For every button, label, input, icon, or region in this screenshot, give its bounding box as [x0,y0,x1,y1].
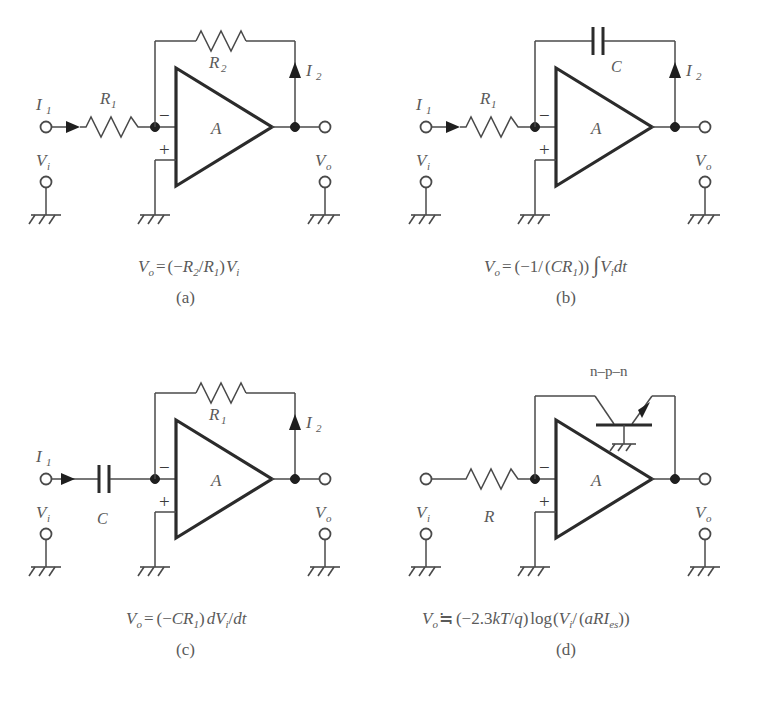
svg-text:Vo=(−R2/R1)Vi: Vo=(−R2/R1)Vi [138,257,239,278]
label-amp-a: A [210,119,222,138]
ground-symbol-amp-a [138,215,170,224]
feedback-resistor-a [196,31,246,51]
op-amp-triangle-b [556,68,652,186]
circuit-panel-a: I 1 R 1 R 2 I 2 A − + V i V o Vo=(−R2/R1… [0,0,380,352]
label-input-current-a: I [35,95,43,114]
label-feedback-current-sub-b: 2 [696,70,702,82]
output-terminal-b[interactable] [700,122,711,133]
input-ground-terminal-c[interactable] [41,529,52,540]
circuit-panel-c: I 1 C R 1 I 2 A − + V i V o Vo=(−CR1)dVi… [0,352,380,704]
label-input-resistor-sub-a: 1 [111,98,117,110]
output-terminal-c[interactable] [320,474,331,485]
caption-d: (d) [556,640,576,659]
output-ground-terminal-c[interactable] [320,529,331,540]
inverting-sign-d: − [539,457,550,478]
label-input-current-sub-b: 1 [426,104,432,116]
label-input-voltage-sub-d: i [427,512,430,524]
label-input-voltage-sub-a: i [47,160,50,172]
output-node-d [671,475,680,484]
ground-symbol-input-c [29,567,61,576]
label-amp-c: A [210,471,222,490]
label-feedback-current-sub-a: 2 [316,70,322,82]
svg-text:Vo=(−1/(CR1))∫Vidt: Vo=(−1/(CR1))∫Vidt [484,252,628,278]
output-ground-terminal-b[interactable] [700,177,711,188]
label-output-voltage-sub-d: o [706,512,712,524]
label-amp-b: A [590,119,602,138]
input-resistor-b [460,117,525,137]
output-terminal-d[interactable] [700,474,711,485]
label-input-current-sub-c: 1 [46,456,52,468]
label-amp-d: A [590,471,602,490]
noninverting-sign-b: + [539,139,550,160]
output-ground-terminal-d[interactable] [700,529,711,540]
label-feedback-resistor-a: R [208,53,220,72]
input-terminal-a[interactable] [41,122,52,133]
noninverting-sign-c: + [159,491,170,512]
feedback-current-arrow-b [669,62,681,78]
output-node-a [291,123,300,132]
input-terminal-d[interactable] [421,474,432,485]
label-feedback-capacitor-b: C [611,58,622,75]
noninverting-sign-a: + [159,139,170,160]
output-node-c [291,475,300,484]
ground-symbol-amp-d [518,567,550,576]
label-input-current-sub-a: 1 [46,104,52,116]
ground-symbol-input-d [409,567,441,576]
ground-symbol-output-d [688,567,720,576]
label-feedback-current-sub-c: 2 [316,422,322,434]
circuit-panel-b: I 1 R 1 C I 2 A − + V i V o Vo=(−1/(CR1)… [380,0,760,352]
ground-symbol-output-b [688,215,720,224]
label-transistor-d: n–p–n [590,363,628,379]
output-terminal-a[interactable] [320,122,331,133]
ground-symbol-amp-b [518,215,550,224]
equation-b: Vo=(−1/(CR1))∫Vidt [484,252,628,278]
label-output-voltage-sub-c: o [326,512,332,524]
label-feedback-current-b: I [685,61,693,80]
op-amp-triangle-a [176,68,272,186]
inverting-sign-a: − [159,105,170,126]
caption-a: (a) [176,288,195,307]
feedback-current-arrow-a [289,62,301,78]
inverting-sign-b: − [539,105,550,126]
ground-symbol-output-c [308,567,340,576]
input-ground-terminal-a[interactable] [41,177,52,188]
input-resistor-d [460,469,525,489]
label-input-resistor-a: R [99,89,111,108]
ground-symbol-input-b [409,215,441,224]
inverting-sign-c: − [159,457,170,478]
caption-b: (b) [556,288,576,307]
input-current-arrow-a [66,121,80,133]
svg-text:Vo≒(−2.3kT/q)log(Vi/(aRIes)): Vo≒(−2.3kT/q)log(Vi/(aRIes)) [422,609,630,630]
feedback-capacitor-b [593,27,603,55]
feedback-current-arrow-c [289,414,301,430]
input-current-arrow-b [446,121,460,133]
output-ground-terminal-a[interactable] [320,177,331,188]
caption-c: (c) [176,640,195,659]
label-input-resistor-d: R [483,507,495,526]
equation-d: Vo≒(−2.3kT/q)log(Vi/(aRIes)) [422,609,630,630]
op-amp-triangle-d [556,420,652,538]
input-terminal-b[interactable] [421,122,432,133]
label-feedback-resistor-c: R [208,405,220,424]
label-feedback-current-a: I [305,61,313,80]
label-output-voltage-sub-a: o [326,160,332,172]
equation-c: Vo=(−CR1)dVi/dt [126,609,248,630]
equation-a: Vo=(−R2/R1)Vi [138,257,239,278]
circuit-panel-d: n–p–n R A − + V i V o Vo≒(−2.3kT/q)log(V… [380,352,760,704]
label-input-capacitor-c: C [97,510,108,527]
input-terminal-c[interactable] [41,474,52,485]
label-output-voltage-sub-b: o [706,160,712,172]
label-feedback-resistor-sub-c: 1 [221,414,227,426]
input-ground-terminal-b[interactable] [421,177,432,188]
figure-sheet: I 1 R 1 R 2 I 2 A − + V i V o Vo=(−R2/R1… [0,0,760,705]
input-resistor-a [80,117,145,137]
svg-text:Vo=(−CR1)dVi/dt: Vo=(−CR1)dVi/dt [126,609,248,630]
label-input-voltage-sub-c: i [47,512,50,524]
label-feedback-resistor-sub-a: 2 [221,62,227,74]
input-ground-terminal-d[interactable] [421,529,432,540]
ground-symbol-transistor-d [610,444,636,451]
label-input-voltage-sub-b: i [427,160,430,172]
noninverting-sign-d: + [539,491,550,512]
feedback-resistor-c [196,383,246,403]
label-input-current-c: I [35,447,43,466]
